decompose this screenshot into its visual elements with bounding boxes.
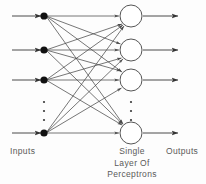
perceptron-layer-label-line2: Layer Of — [98, 158, 166, 170]
ellipsis-dot — [130, 110, 132, 112]
input-node — [40, 12, 47, 19]
input-node — [40, 129, 47, 136]
perceptron-node — [120, 39, 142, 61]
connection-line — [46, 26, 124, 133]
connection-line — [46, 25, 123, 80]
perceptron-node — [120, 122, 142, 144]
connection-group — [46, 16, 124, 133]
ellipsis-dot — [43, 110, 45, 112]
output-arrow-group — [143, 16, 178, 133]
ellipsis-dot — [130, 101, 132, 103]
perceptron-node — [120, 69, 142, 91]
perceptron-layer-label: Single Layer Of Perceptrons — [98, 146, 166, 181]
perceptron-node — [120, 5, 142, 27]
input-node-group — [40, 12, 47, 136]
outputs-label: Outputs — [166, 146, 198, 157]
perceptron-layer-label-line3: Perceptrons — [98, 169, 166, 181]
inputs-label: Inputs — [10, 146, 35, 157]
perceptron-group — [120, 5, 142, 144]
perceptron-layer-label-line1: Single — [98, 146, 166, 158]
neural-network-diagram: Inputs Single Layer Of Perceptrons Outpu… — [0, 0, 206, 184]
connection-line — [46, 88, 122, 133]
input-ellipsis — [43, 101, 45, 121]
ellipsis-dot — [43, 119, 45, 121]
ellipsis-dot — [43, 101, 45, 103]
perceptron-ellipsis — [130, 101, 132, 121]
ellipsis-dot — [130, 119, 132, 121]
input-node — [40, 46, 47, 53]
connection-line — [46, 16, 121, 44]
input-node — [40, 76, 47, 83]
input-arrow-group — [12, 16, 41, 133]
connection-line — [46, 24, 122, 50]
